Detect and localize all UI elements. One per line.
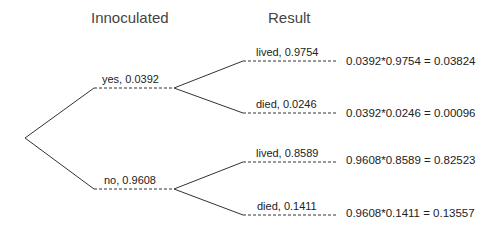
branch-yes-lived-line: [174, 61, 243, 88]
branch-no-lived-line: [174, 162, 243, 189]
branch-no-line: [25, 138, 94, 189]
label-no-lived: lived, 0.8589: [256, 147, 318, 159]
header-result: Result: [268, 9, 311, 26]
header-innoculated: Innoculated: [91, 9, 169, 26]
branch-no-died-line: [174, 189, 243, 215]
result-yes-died: 0.0392*0.0246 = 0.00096: [346, 107, 476, 119]
result-no-died: 0.9608*0.1411 = 0.13557: [346, 207, 475, 219]
result-yes-lived: 0.0392*0.9754 = 0.03824: [346, 55, 476, 67]
label-no-died: died, 0.1411: [257, 200, 317, 212]
label-yes-lived: lived, 0.9754: [256, 46, 318, 58]
label-no: no, 0.9608: [104, 174, 156, 186]
label-yes: yes, 0.0392: [102, 73, 159, 85]
branch-yes-line: [25, 88, 94, 138]
branch-yes-died-line: [174, 88, 243, 113]
result-no-lived: 0.9608*0.8589 = 0.82523: [346, 154, 476, 166]
label-yes-died: died, 0.0246: [256, 98, 317, 110]
